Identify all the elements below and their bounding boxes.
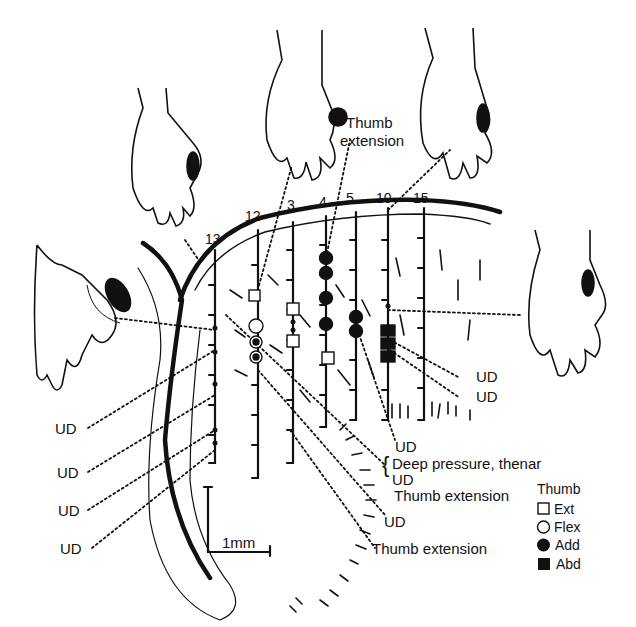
svg-text:Flex: Flex — [554, 519, 580, 535]
svg-text:Abd: Abd — [556, 556, 581, 572]
svg-text:UD: UD — [384, 513, 406, 530]
svg-text:Thumb extension: Thumb extension — [372, 540, 487, 557]
right-ud-labels: UD UD — [476, 368, 498, 405]
svg-text:Ext: Ext — [554, 501, 574, 517]
svg-text:13: 13 — [205, 231, 221, 247]
cortex-surface-bold — [180, 200, 500, 300]
svg-text:{: { — [382, 452, 389, 477]
left-ud-labels: UD UD UD UD — [55, 420, 82, 557]
scale-bar-label: 1mm — [222, 534, 255, 551]
svg-text:UD: UD — [476, 368, 498, 385]
bottom-labels: UD { Deep pressure, thenar UD Thumb exte… — [372, 438, 541, 557]
svg-text:Thumb: Thumb — [537, 481, 581, 497]
hand-upper-left — [132, 88, 201, 226]
svg-text:UD: UD — [57, 464, 79, 481]
svg-text:UD: UD — [392, 471, 414, 488]
svg-text:3: 3 — [287, 197, 295, 213]
legend-add-symbol — [537, 539, 550, 552]
legend: Thumb Ext Flex Add Abd — [537, 481, 581, 572]
svg-text:UD: UD — [58, 502, 80, 519]
svg-text:Deep pressure, thenar: Deep pressure, thenar — [392, 455, 541, 472]
sulcus-outline-outer — [138, 268, 236, 620]
electrode-track-figure: 13 12 3 4 5 10 15 — [0, 0, 636, 627]
svg-text:10: 10 — [376, 190, 392, 206]
svg-text:UD: UD — [55, 420, 77, 437]
svg-text:Thumb: Thumb — [346, 114, 393, 131]
svg-text:12: 12 — [245, 208, 261, 224]
legend-flex-symbol — [538, 521, 550, 533]
hand-left — [35, 245, 136, 390]
svg-text:UD: UD — [60, 540, 82, 557]
hand-upper-center — [266, 30, 347, 180]
hand-right — [529, 230, 606, 376]
svg-text:Add: Add — [555, 537, 580, 553]
legend-abd-symbol — [538, 558, 550, 570]
hand-upper-right — [421, 28, 492, 179]
svg-text:Thumb extension: Thumb extension — [394, 487, 509, 504]
legend-ext-symbol — [538, 503, 549, 514]
svg-text:UD: UD — [476, 388, 498, 405]
svg-text:extension: extension — [340, 132, 404, 149]
response-markers — [213, 252, 396, 446]
hand-annotation: Thumb extension — [340, 114, 404, 149]
figure-canvas: 13 12 3 4 5 10 15 — [0, 0, 636, 627]
svg-text:15: 15 — [413, 190, 429, 206]
svg-text:4: 4 — [319, 194, 327, 210]
svg-text:UD: UD — [395, 438, 417, 455]
svg-text:5: 5 — [346, 190, 354, 206]
